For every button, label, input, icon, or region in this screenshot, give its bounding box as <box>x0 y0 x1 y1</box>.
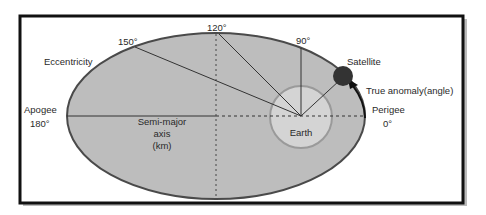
apogee-label: Apogee <box>24 104 57 115</box>
angle-150-label: 150° <box>118 36 138 47</box>
apogee-angle-label: 180° <box>30 118 50 129</box>
satellite-icon <box>333 66 353 86</box>
satellite-label: Satellite <box>347 56 381 67</box>
true-anomaly-label: True anomaly(angle) <box>366 85 453 96</box>
perigee-angle-label: 0° <box>383 118 392 129</box>
eccentricity-label: Eccentricity <box>44 56 93 67</box>
earth-label: Earth <box>290 127 313 138</box>
semi-major-label-2: axis <box>154 128 171 139</box>
semi-major-label-1: Semi-major <box>138 116 187 127</box>
angle-90-label: 90° <box>296 35 311 46</box>
angle-120-label: 120° <box>207 22 227 33</box>
semi-major-label-3: (km) <box>153 140 172 151</box>
orbit-diagram: Eccentricity 150° 120° 90° Satellite Tru… <box>0 0 486 215</box>
perigee-label: Perigee <box>372 104 405 115</box>
